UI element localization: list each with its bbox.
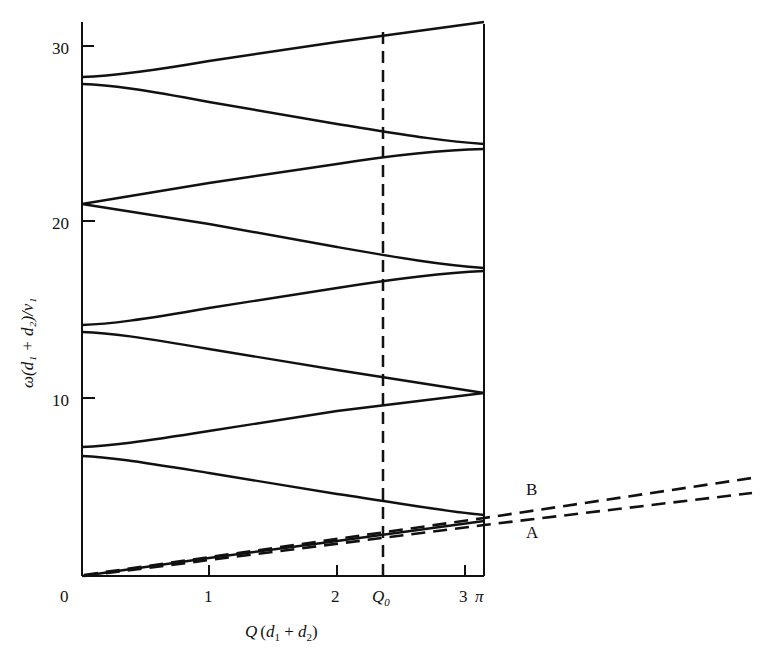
bands xyxy=(82,22,484,576)
xtick-label-0: 0 xyxy=(60,587,69,606)
band-5 xyxy=(82,271,484,325)
band-6 xyxy=(82,204,484,268)
band-4 xyxy=(82,332,484,393)
xtick-label-2: 2 xyxy=(331,587,340,606)
plot-frame xyxy=(82,22,484,576)
band-3 xyxy=(82,393,484,447)
x-axis-title: Q(d1 + d2) xyxy=(245,622,318,643)
band-1 xyxy=(82,521,484,576)
label-B: B xyxy=(526,480,537,499)
label-A: A xyxy=(526,523,539,542)
xtick-label-1: 1 xyxy=(204,587,213,606)
dashed-lines xyxy=(84,478,752,576)
xtick-label-3: 3 xyxy=(459,587,468,606)
q0-main: Q xyxy=(372,587,384,606)
ytick-label-30: 30 xyxy=(52,39,69,58)
band-2 xyxy=(82,456,484,515)
q0-sub: 0 xyxy=(384,596,390,608)
ytick-label-10: 10 xyxy=(52,391,69,410)
xtick-label-pi: π xyxy=(475,587,484,606)
band-8 xyxy=(82,84,484,144)
band-7 xyxy=(82,149,484,204)
band-9 xyxy=(82,22,484,77)
y-axis-title: ω(d₁ + d₂)/v₁ xyxy=(18,298,37,388)
xtick-label-q0: Q0 xyxy=(372,587,390,608)
dispersion-chart: B A 30 20 10 0 1 2 Q0 3 π Q(d1 + d2) ω(d… xyxy=(0,0,767,660)
line-B xyxy=(84,478,752,575)
ytick-label-20: 20 xyxy=(52,214,69,233)
